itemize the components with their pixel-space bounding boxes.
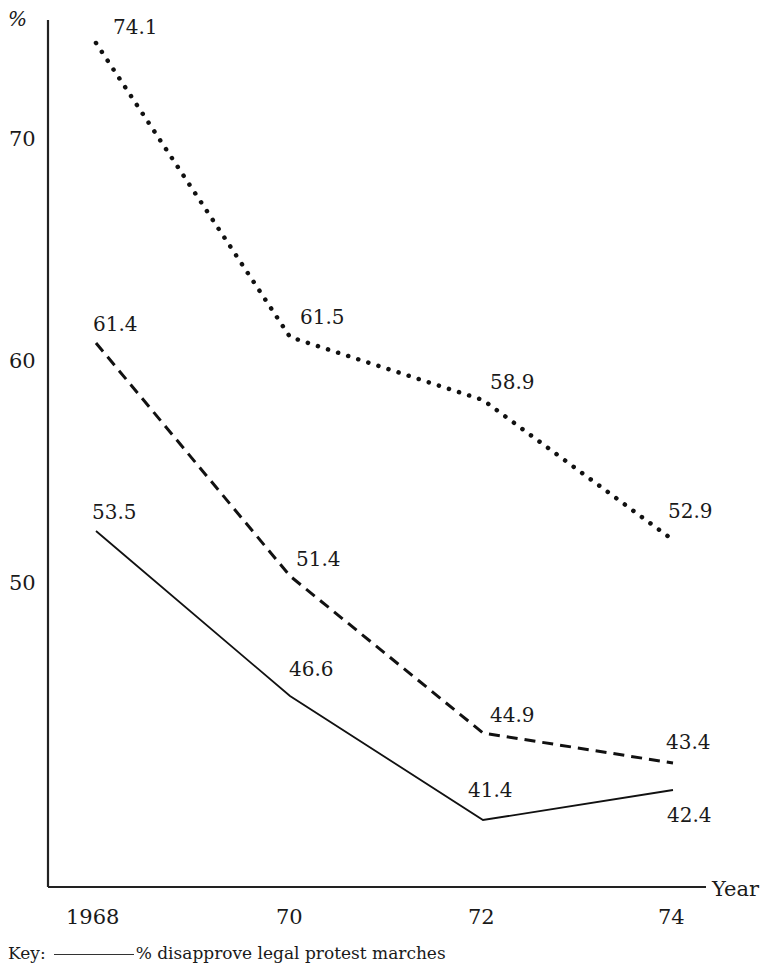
series-dotted-line [96,43,673,540]
data-label: 43.4 [666,730,711,754]
key-prefix: Key: [8,943,46,963]
y-axis-unit: % [8,7,27,31]
key-entry-solid: % disapprove legal protest marches [136,943,446,963]
data-label: 61.4 [93,312,138,336]
series-solid-line [96,531,673,820]
data-label: 46.6 [289,657,334,681]
data-label: 44.9 [490,703,535,727]
y-tick-60: 60 [9,349,36,373]
y-tick-50: 50 [9,571,36,595]
y-tick-70: 70 [9,127,36,151]
data-label: 41.4 [468,778,513,802]
data-label: 58.9 [490,370,535,394]
chart-key: Key: % disapprove legal protest marches [8,943,446,963]
data-label: 51.4 [296,547,341,571]
data-label: 52.9 [668,499,713,523]
data-label: 61.5 [300,305,345,329]
line-chart: % Year 70 60 50 1968 70 72 74 74.1 61.5 … [0,0,771,935]
x-tick-1968: 1968 [66,905,119,929]
x-tick-72: 72 [468,905,495,929]
data-label: 42.4 [667,803,712,827]
solid-line-swatch-icon [54,954,134,955]
x-tick-74: 74 [658,905,685,929]
x-axis-title: Year [711,877,760,901]
data-label: 53.5 [92,500,137,524]
series-dashed-line [96,343,673,763]
data-label: 74.1 [113,15,158,39]
x-tick-70: 70 [276,905,303,929]
